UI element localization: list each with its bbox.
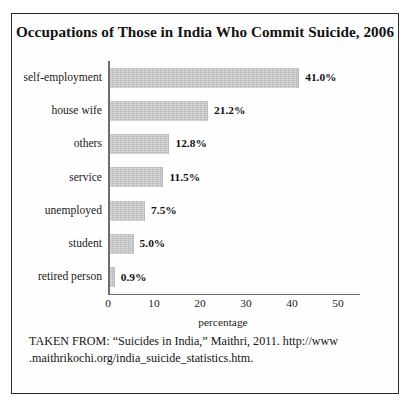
bar-row: service 11.5% xyxy=(12,161,398,194)
bar-wrap-unemployed: 7.5% xyxy=(110,194,177,227)
x-tick-label: 20 xyxy=(194,298,205,309)
bar-wrap-student: 5.0% xyxy=(110,227,166,260)
bar-value-student: 5.0% xyxy=(140,238,166,249)
x-axis-title: percentage xyxy=(108,316,338,328)
bar-row: student 5.0% xyxy=(12,227,398,260)
bar-wrap-service: 11.5% xyxy=(110,161,201,194)
bar-value-self-employment: 41.0% xyxy=(305,72,336,83)
x-axis-ticks: 01020304050 xyxy=(108,298,338,314)
bar-house-wife xyxy=(110,101,209,121)
category-label-unemployed: unemployed xyxy=(12,205,102,217)
category-label-self-employment: self-employment xyxy=(12,72,102,84)
bar-row: house wife 21.2% xyxy=(12,94,398,127)
bar-unemployed xyxy=(110,201,146,221)
bar-others xyxy=(110,134,170,154)
page-title: Occupations of Those in India Who Commit… xyxy=(12,23,398,41)
x-axis-line xyxy=(108,294,360,295)
bar-row: retired person 0.9% xyxy=(12,261,398,294)
category-label-retired-person: retired person xyxy=(12,271,102,283)
bar-student xyxy=(110,234,134,254)
bar-rows: self-employment 41.0% house wife 21.2% o… xyxy=(12,61,398,294)
bar-wrap-self-employment: 41.0% xyxy=(110,61,337,94)
bar-value-service: 11.5% xyxy=(169,172,200,183)
bar-value-retired-person: 0.9% xyxy=(121,272,147,283)
bar-value-unemployed: 7.5% xyxy=(151,205,177,216)
x-tick-label: 40 xyxy=(286,298,297,309)
x-tick-label: 0 xyxy=(105,298,111,309)
bar-wrap-others: 12.8% xyxy=(110,128,207,161)
bar-self-employment xyxy=(110,68,300,88)
figure-frame: Occupations of Those in India Who Commit… xyxy=(11,13,399,394)
bar-service xyxy=(110,167,164,187)
category-label-service: service xyxy=(12,172,102,184)
category-label-student: student xyxy=(12,238,102,250)
category-label-others: others xyxy=(12,138,102,150)
source-attribution: TAKEN FROM: “Suicides in India,” Maithri… xyxy=(29,333,384,367)
bar-wrap-house-wife: 21.2% xyxy=(110,94,246,127)
bar-row: others 12.8% xyxy=(12,128,398,161)
x-tick-label: 30 xyxy=(240,298,251,309)
x-tick-label: 50 xyxy=(332,298,343,309)
bar-chart-plot: self-employment 41.0% house wife 21.2% o… xyxy=(12,58,398,312)
bar-value-house-wife: 21.2% xyxy=(214,105,245,116)
bar-value-others: 12.8% xyxy=(175,138,206,149)
bar-row: unemployed 7.5% xyxy=(12,194,398,227)
category-label-house-wife: house wife xyxy=(12,105,102,117)
bar-row: self-employment 41.0% xyxy=(12,61,398,94)
x-tick-label: 10 xyxy=(148,298,159,309)
bar-wrap-retired-person: 0.9% xyxy=(110,261,147,294)
bar-retired-person xyxy=(110,267,115,287)
